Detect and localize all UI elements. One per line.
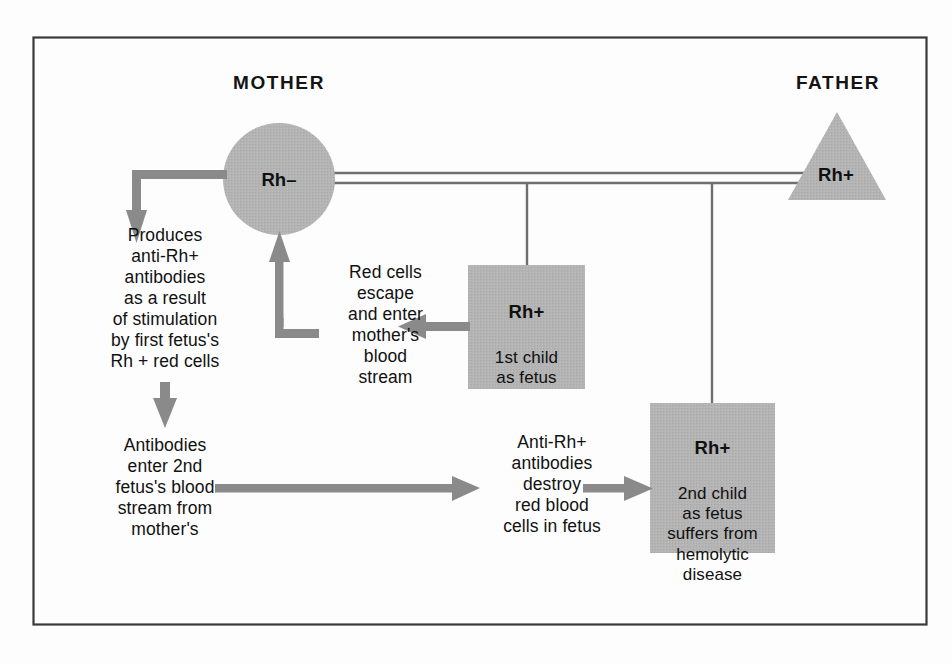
produces-annotation: Produces anti-Rh+ antibodies as a result… <box>62 225 268 372</box>
second-child-title: Rh+ <box>645 437 780 458</box>
father-heading: FATHER <box>758 72 918 94</box>
father-node[interactable] <box>788 112 886 200</box>
second-child-body: 2nd child as fetus suffers from hemolyti… <box>645 484 780 586</box>
red-cells-escape-annotation: Red cells escape and enter mother's bloo… <box>323 262 448 388</box>
first-child-body: 1st child as fetus <box>462 348 591 389</box>
second-child-node-text: Rh+ 2nd child as fetus suffers from hemo… <box>645 418 780 604</box>
diagram-canvas: MOTHER FATHER Rh– Rh+ Rh+ 1st child as f… <box>0 0 952 664</box>
father-node-label: Rh+ <box>797 164 875 185</box>
first-child-node-text: Rh+ 1st child as fetus <box>462 282 591 407</box>
mother-node-label: Rh– <box>219 169 339 190</box>
marriage-line <box>330 173 862 183</box>
produces-to-antibodies-arrow <box>153 382 177 428</box>
first-child-title: Rh+ <box>462 301 591 322</box>
antibodies-enter-annotation: Antibodies enter 2nd fetus's blood strea… <box>60 435 270 540</box>
anti-rh-destroy-annotation: Anti-Rh+ antibodies destroy red blood ce… <box>484 432 620 537</box>
mother-heading: MOTHER <box>196 72 362 94</box>
red-cells-to-mother-arrow <box>269 231 319 338</box>
